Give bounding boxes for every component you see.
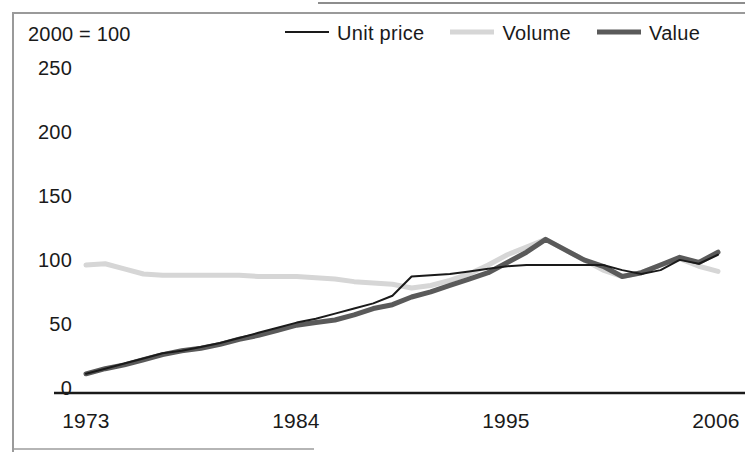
series-line-value [86, 239, 718, 373]
plot-area [0, 0, 745, 452]
series-line-unit-price [86, 255, 718, 374]
series-line-volume [86, 239, 718, 288]
chart-figure: 2000 = 100 Unit price Volume [0, 0, 745, 452]
